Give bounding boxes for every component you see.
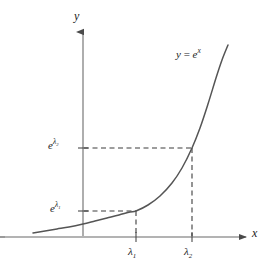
y-tick-label-e-lambda-2: eλ2 (48, 140, 58, 151)
x-tick-2-sub: 2 (189, 252, 192, 259)
plot-canvas (0, 0, 275, 272)
curve-equation-label: y = ex (176, 49, 201, 60)
x-tick-label-lambda-2: λ2 (184, 246, 192, 257)
y-axis-label: y (74, 10, 79, 22)
exponential-function-figure: y x y = ex eλ2 eλ1 λ1 λ2 (0, 0, 275, 272)
y-tick-1-exponent-sub: 1 (58, 206, 60, 211)
curve-label-exponent: x (198, 46, 201, 55)
y-tick-2-exponent: λ2 (53, 137, 59, 146)
y-tick-label-e-lambda-1: eλ1 (50, 203, 60, 214)
x-tick-1-sub: 1 (133, 252, 136, 259)
exponential-curve (33, 45, 228, 233)
y-tick-2-exponent-sub: 2 (56, 143, 58, 148)
x-axis-label: x (252, 227, 257, 239)
y-tick-1-exponent: λ1 (55, 200, 61, 209)
x-tick-label-lambda-1: λ1 (128, 246, 136, 257)
left-margin-rule (0, 236, 5, 238)
